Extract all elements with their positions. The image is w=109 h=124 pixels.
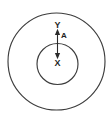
diagram-canvas: Y A X	[0, 0, 109, 124]
label-a: A	[61, 31, 67, 40]
concentric-circles-diagram: Y A X	[0, 0, 109, 124]
label-x: X	[54, 58, 60, 68]
label-y: Y	[54, 20, 60, 30]
